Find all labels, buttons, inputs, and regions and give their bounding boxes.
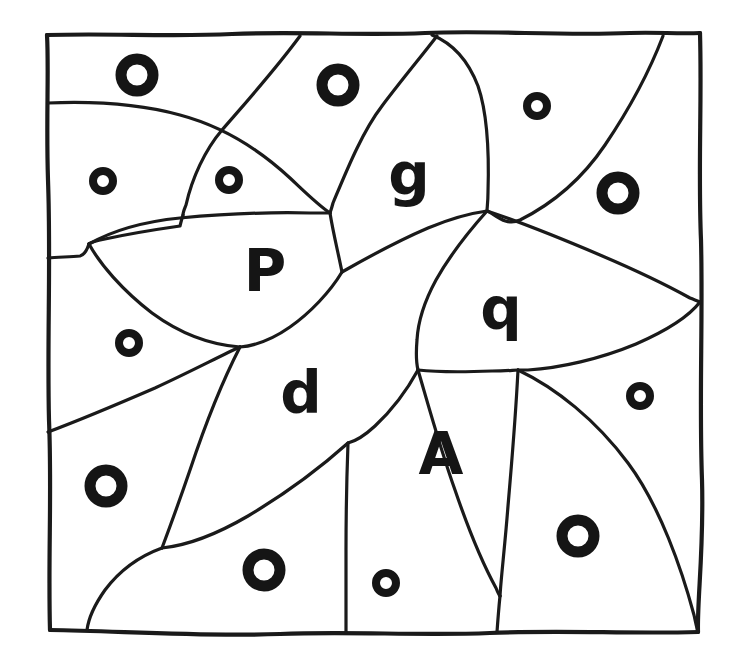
ring-small-upper-left: [93, 171, 113, 191]
divider-a-right-boundary: [500, 370, 518, 596]
divider-q-bottom-left-hook: [418, 370, 518, 372]
ring-large-lower-left: [90, 470, 122, 502]
ring-large-top-left: [121, 59, 153, 91]
divider-p-cell-top: [89, 213, 330, 244]
ring-small-mid-left: [119, 333, 139, 353]
divider-p-cell-bottom-left: [89, 244, 240, 347]
figure-canvas: P g q d A: [0, 0, 736, 664]
frame-left-edge: [47, 35, 50, 630]
letter-group: P g q d A: [244, 141, 522, 488]
ring-small-top-right: [527, 96, 547, 116]
frame-right-edge: [698, 33, 702, 632]
ring-large-right: [602, 177, 634, 209]
letter-d: d: [280, 359, 322, 427]
divider-a-bottom-stub: [497, 596, 500, 632]
frame-bottom-edge: [50, 630, 698, 635]
divider-d-right-boundary: [346, 443, 348, 632]
divider-top-left-diagonal: [183, 36, 300, 215]
ring-small-bottom-center: [376, 573, 396, 593]
divider-lower-right-sweep: [518, 370, 698, 632]
divider-d-cell-left: [162, 347, 240, 548]
divider-center-diagonal: [342, 211, 487, 272]
ring-small-upper-mid: [219, 170, 239, 190]
frame-top-edge: [47, 32, 700, 35]
divider-q-left-boundary: [416, 211, 487, 370]
ring-small-mid-right: [630, 386, 650, 406]
figure-root: P g q d A: [0, 0, 736, 664]
ring-large-bottom-center: [248, 554, 280, 586]
divider-a-left-boundary: [348, 370, 418, 443]
letter-P: P: [244, 237, 287, 305]
ring-large-lower-right: [562, 520, 594, 552]
divider-lower-left-sweep: [87, 548, 162, 630]
divider-g-right-boundary: [432, 35, 488, 211]
letter-q: q: [480, 275, 522, 343]
divider-q-cell-bottom: [518, 302, 700, 370]
divider-d-cell-bottom: [162, 443, 348, 548]
ring-large-top-center: [322, 69, 354, 101]
outer-square-frame: [47, 32, 702, 635]
divider-mid-left-diagonal: [48, 347, 240, 432]
letter-A: A: [419, 420, 464, 488]
divider-left-edge-stub: [48, 244, 89, 258]
cell-divider-curves: [48, 35, 700, 632]
letter-g: g: [388, 141, 430, 209]
